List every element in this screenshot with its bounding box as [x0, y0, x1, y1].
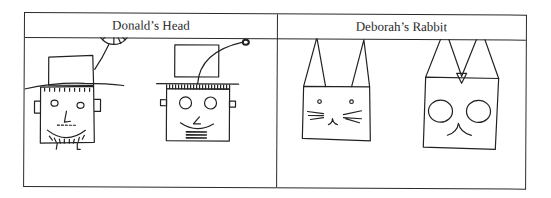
rabbit-drawing-freehand [302, 38, 371, 140]
rabbit-drawing-geometric [423, 38, 499, 149]
rabbit-drawings-icon [277, 38, 526, 188]
head-drawing-freehand [24, 37, 130, 150]
header-donalds-head: Donald’s Head [25, 13, 277, 38]
head-drawing-ruled [156, 39, 249, 141]
cell-donalds-head [24, 37, 277, 187]
header-deborahs-rabbit: Deborah’s Rabbit [277, 14, 526, 39]
head-drawings-icon [24, 37, 277, 187]
cell-deborahs-rabbit [277, 38, 526, 188]
drawings-comparison-table: Donald’s Head Deborah’s Rabbit [23, 12, 527, 190]
